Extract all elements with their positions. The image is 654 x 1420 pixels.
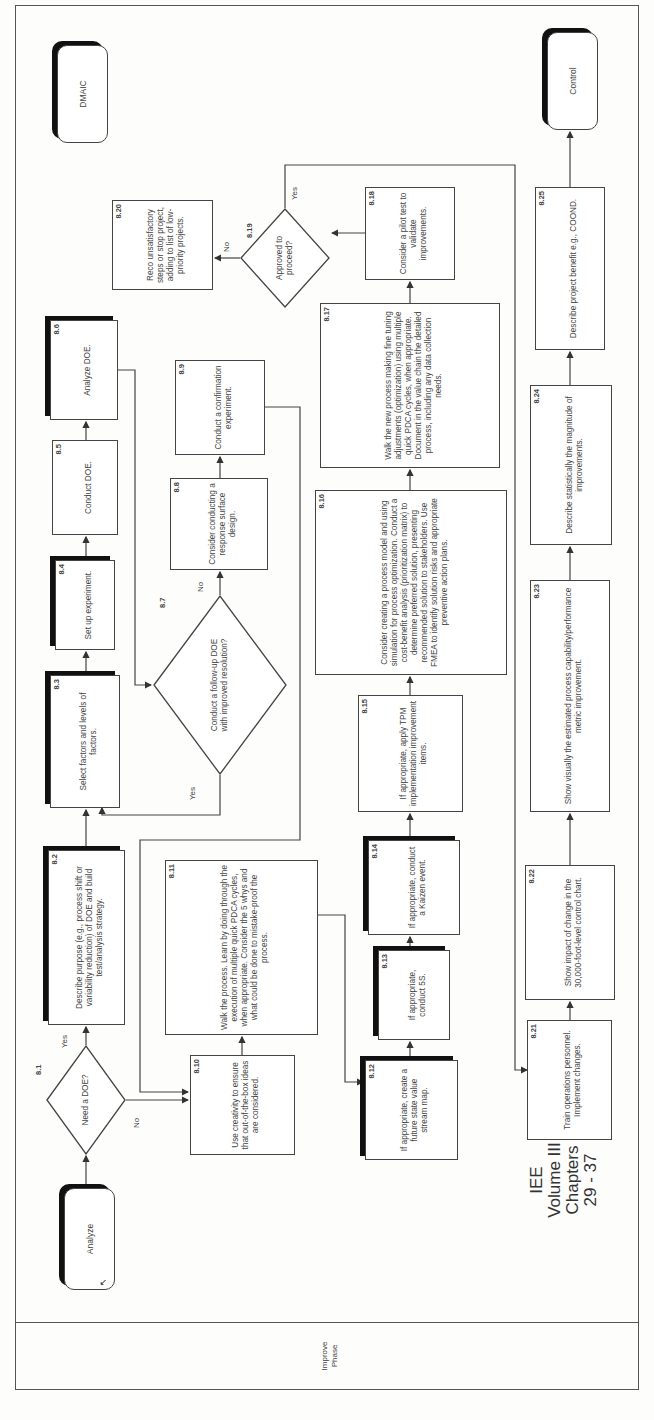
step-number: 8.22	[527, 869, 537, 884]
step-text: Show impact of change in the 30,000-foot…	[564, 870, 584, 995]
step-8-16: 8.16 Consider creating a process model a…	[315, 490, 507, 675]
step-8-24: 8.24 Describe statistically the magnitud…	[530, 385, 612, 545]
step-8-5: 8.5 Conduct DOE.	[52, 440, 118, 535]
step-number: 8.20	[114, 204, 124, 219]
step-number: 8.4	[57, 564, 67, 574]
step-8-11: 8.11 Walk the process. Learn by doing th…	[165, 860, 318, 1035]
step-number: 8.25	[537, 191, 547, 206]
step-number: 8.23	[532, 584, 542, 599]
step-number: 8.15	[360, 699, 370, 714]
step-number: 8.18	[367, 191, 377, 206]
step-number: 8.2	[50, 854, 60, 864]
terminal-dmaic-label: DMAIC	[78, 80, 88, 107]
step-number: 8.11	[167, 864, 177, 878]
step-text: Consider creating a process model and us…	[380, 495, 450, 670]
step-number: 8.7	[158, 598, 167, 608]
step-text: Conduct DOE.	[84, 461, 94, 514]
step-number: 8.5	[54, 444, 64, 454]
step-number: 8.17	[322, 307, 332, 322]
step-8-15: 8.15 If appropriate, apply TPM implement…	[358, 695, 463, 812]
step-text: Walk the process. Learn by doing through…	[220, 865, 270, 1030]
step-number: 8.24	[532, 389, 542, 404]
terminal-dmaic: DMAIC	[57, 45, 108, 143]
step-text: If appropriate, conduct 5S.	[408, 955, 428, 1035]
step-8-10: 8.10 Use creativity to ensure that out-o…	[190, 1055, 295, 1155]
step-text: Reco unsatisfactory steps or stop projec…	[146, 205, 186, 285]
step-8-25: 8.25 Describe project benefit e.g., COON…	[535, 187, 605, 350]
step-text: Consider a pilot test to validate improv…	[399, 192, 429, 275]
step-number: 8.10	[192, 1059, 202, 1074]
step-number: 8.14	[370, 844, 380, 859]
branch-no-label: No	[222, 242, 231, 252]
volume-line2: Volume III	[546, 1130, 564, 1230]
step-text: Walk the new process making fine tuning …	[384, 308, 444, 463]
branch-no-label: No	[132, 1118, 141, 1128]
step-number: 8.21	[529, 1024, 539, 1039]
decision-8-7: Conduct a follow-up DOE with improved re…	[153, 595, 287, 775]
terminal-control-label: Control	[568, 67, 578, 94]
step-text: Use creativity to ensure that out-of-the…	[231, 1060, 261, 1150]
step-number: 8.6	[52, 324, 62, 334]
step-8-18: 8.18 Consider a pilot test to validate i…	[365, 187, 455, 280]
volume-line3: Chapters	[564, 1130, 582, 1230]
decision-8-1: Need a DOE?	[46, 1045, 126, 1155]
step-text: If appropriate, create a future state va…	[400, 1065, 430, 1155]
step-8-8: 8.8 Consider conducting a response surfa…	[170, 478, 268, 570]
step-8-23: 8.23 Show visually the estimated process…	[530, 580, 610, 812]
decision-8-7-text: Conduct a follow-up DOE with improved re…	[153, 595, 287, 775]
terminal-analyze-label: Analyze	[85, 1224, 95, 1254]
branch-no-label: No	[196, 582, 205, 592]
terminal-analyze: Analyze	[64, 1188, 115, 1290]
step-8-17: 8.17 Walk the new process making fine tu…	[320, 303, 500, 468]
step-text: Train operations personnel. Implement ch…	[563, 1025, 583, 1135]
step-8-4: 8.4 Set up experiment.	[55, 560, 115, 650]
step-8-3: 8.3 Select factors and levels of factors…	[50, 675, 120, 808]
step-8-14: 8.14 If appropriate, conduct a Kaizen ev…	[368, 840, 460, 935]
flowchart-canvas: Improve Phase	[0, 0, 654, 1420]
terminal-control: Control	[547, 32, 598, 130]
step-text: Describe project benefit e.g., COOND.	[569, 199, 579, 338]
step-number: 8.1	[34, 1065, 43, 1075]
step-8-6: 8.6 Analyze DOE.	[50, 320, 118, 420]
step-number: 8.12	[367, 1064, 377, 1079]
step-8-21: 8.21 Train operations personnel. Impleme…	[527, 1020, 612, 1140]
branch-yes-label: Yes	[290, 187, 299, 200]
step-8-22: 8.22 Show impact of change in the 30,000…	[525, 865, 615, 1000]
decision-8-1-text: Need a DOE?	[46, 1045, 126, 1155]
step-number: 8.13	[380, 954, 390, 969]
step-text: If appropriate, conduct a Kaizen event.	[408, 845, 428, 930]
step-8-13: 8.13 If appropriate, conduct 5S.	[378, 950, 450, 1040]
branch-yes-label: Yes	[188, 787, 197, 800]
step-number: 8.3	[52, 679, 62, 689]
cursor-icon: ↖	[98, 1278, 108, 1286]
step-text: Analyze DOE.	[83, 344, 93, 395]
step-text: Describe statistically the magnitude of …	[565, 390, 585, 540]
step-8-2: 8.2 Describe purpose (e.g., process shif…	[48, 850, 125, 1025]
step-number: 8.8	[172, 482, 182, 492]
step-text: Show visually the estimated process capa…	[564, 585, 584, 807]
volume-reference: IEE Volume III Chapters 29 - 37	[528, 1130, 600, 1230]
step-text: If appropriate, apply TPM implementation…	[399, 700, 429, 807]
step-text: Select factors and levels of factors.	[79, 680, 99, 803]
volume-line4: 29 - 37	[582, 1130, 600, 1230]
step-text: Describe purpose (e.g., process shift or…	[75, 855, 105, 1020]
step-text: Conduct a confirmation experiment.	[214, 365, 234, 450]
step-8-20: 8.20 Reco unsatisfactory steps or stop p…	[112, 200, 213, 290]
step-number: 8.19	[245, 223, 254, 238]
branch-yes-label: Yes	[60, 1035, 69, 1048]
step-8-9: 8.9 Conduct a confirmation experiment.	[175, 360, 265, 455]
volume-line1: IEE	[528, 1130, 546, 1230]
step-number: 8.16	[317, 494, 327, 509]
step-text: Set up experiment.	[84, 571, 94, 640]
step-text: Consider conducting a response surface d…	[208, 483, 238, 565]
step-number: 8.9	[177, 364, 187, 374]
step-8-12: 8.12 If appropriate, create a future sta…	[365, 1060, 458, 1160]
